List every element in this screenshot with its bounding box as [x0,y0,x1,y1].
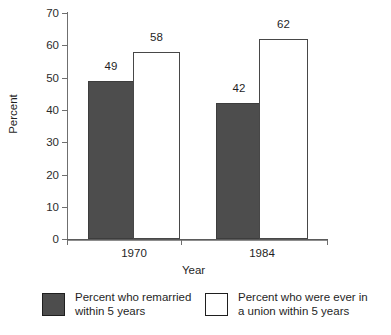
bar-1970-remarried[interactable] [88,81,134,239]
x-axis-group-label-1984: 1984 [222,247,302,259]
x-axis-tick-middle [181,240,182,245]
y-axis-label-10: 10 [19,202,59,213]
y-axis-label-20: 20 [19,170,59,181]
x-axis-title-text: Year [182,264,205,276]
bar-1970-union[interactable] [133,52,180,239]
x-axis-title: Year [0,264,391,276]
legend-swatch-union-icon [205,293,228,316]
chart-legend: Percent who remarried within 5 years Per… [0,291,391,331]
y-axis-label-60: 60 [19,40,59,51]
bar-value-1970-union: 58 [133,31,180,43]
y-axis-title: Percent [7,84,19,144]
y-axis-label-30: 30 [19,137,59,148]
legend-label-remarried: Percent who remarried within 5 years [75,291,191,318]
y-axis-label-0: 0 [19,234,59,245]
bar-1984-remarried[interactable] [216,103,262,239]
y-axis-label-70: 70 [19,8,59,19]
legend-swatch-remarried-icon [42,293,65,316]
x-axis-tick-right [327,240,328,245]
bar-1984-union[interactable] [259,39,308,239]
x-axis-group-label-1970: 1970 [94,247,174,259]
bar-chart-figure: 70 60 50 40 30 20 10 0 Percent 1970 1984… [0,0,391,335]
x-axis-line [67,239,328,241]
y-axis-label-50: 50 [19,73,59,84]
plot-area: 49 58 42 62 [67,13,327,239]
legend-item-union[interactable]: Percent who were ever in a union within … [205,291,368,318]
bar-value-1984-union: 62 [259,18,308,30]
legend-label-union: Percent who were ever in a union within … [238,291,368,318]
bar-value-1970-remarried: 49 [88,60,134,72]
legend-item-remarried[interactable]: Percent who remarried within 5 years [42,291,191,318]
x-axis-tick-left [67,240,68,245]
bar-value-1984-remarried: 42 [216,82,262,94]
y-axis-label-40: 40 [19,105,59,116]
